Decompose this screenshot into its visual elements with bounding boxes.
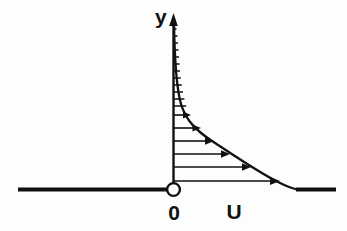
origin-label: 0: [168, 201, 180, 224]
figure-container: y 0 U: [0, 0, 347, 231]
velocity-label: U: [226, 200, 241, 223]
velocity-profile-figure: y 0 U: [0, 0, 347, 231]
y-axis-label: y: [155, 5, 167, 28]
origin-marker-icon: [167, 183, 180, 196]
